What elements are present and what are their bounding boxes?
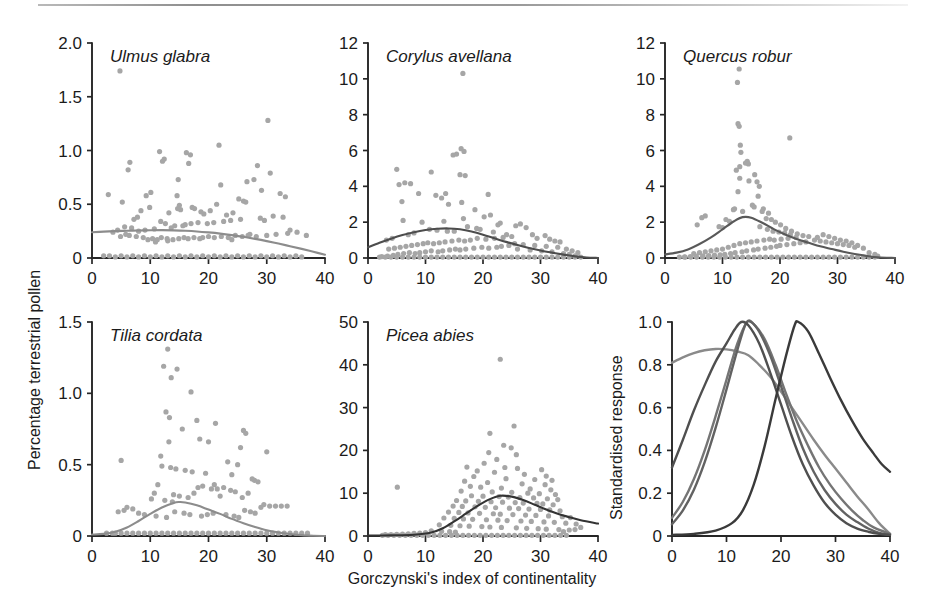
y-tick-label: 6	[646, 142, 655, 161]
scatter-points	[104, 347, 310, 536]
y-tick-label: 1.5	[58, 313, 82, 332]
x-tick-label: 20	[199, 269, 218, 288]
y-tick-label: 0	[73, 527, 82, 546]
axis-spine	[368, 322, 598, 536]
y-tick-label: 0	[653, 527, 662, 546]
y-tick-label: 0	[73, 249, 82, 268]
scatter-points	[377, 71, 583, 260]
top-divider-rule	[38, 4, 908, 6]
y-tick-label: 1.0	[58, 142, 82, 161]
x-tick-label: 20	[199, 547, 218, 566]
y-tick-label: 0.5	[58, 456, 82, 475]
x-tick-label: 0	[667, 547, 676, 566]
panel-title-tilia-cordata: Tilia cordata	[110, 326, 202, 345]
x-tick-label: 10	[141, 269, 160, 288]
y-tick-label: 30	[339, 399, 358, 418]
x-tick-label: 30	[828, 269, 847, 288]
panel-title-quercus-robur: Quercus robur	[683, 47, 793, 66]
x-tick-label: 10	[416, 269, 435, 288]
x-tick-label: 0	[87, 547, 96, 566]
y-tick-label: 50	[339, 313, 358, 332]
y-tick-label: 0.5	[58, 195, 82, 214]
panel-quercus-robur: 024681012010203040Quercus robur	[607, 17, 921, 304]
y-tick-label: 1.5	[58, 88, 82, 107]
panel-corylus-avellana: 024681012010203040Corylus avellana	[310, 17, 624, 304]
panel-title-ulmus-glabra: Ulmus glabra	[110, 47, 210, 66]
y-tick-label: 0.8	[638, 356, 662, 375]
x-tick-label: 30	[257, 269, 276, 288]
y-tick-label: 12	[339, 34, 358, 53]
x-tick-label: 40	[886, 269, 905, 288]
y-tick-label: 2	[646, 213, 655, 232]
y-tick-label: 2	[349, 213, 358, 232]
response-curve-corylus-avellana	[672, 320, 890, 533]
y-tick-label: 8	[646, 106, 655, 125]
x-tick-label: 20	[772, 547, 791, 566]
y-tick-label: 10	[339, 70, 358, 89]
x-tick-label: 20	[771, 269, 790, 288]
x-tick-label: 30	[531, 547, 550, 566]
y-tick-label: 1.0	[58, 384, 82, 403]
x-tick-label: 0	[363, 547, 372, 566]
y-tick-label: 0	[349, 527, 358, 546]
y-tick-label: 20	[339, 441, 358, 460]
y-tick-label: 0.4	[638, 441, 662, 460]
panel-standardised-response: 00.20.40.60.81.0010203040	[614, 296, 916, 582]
y-tick-label: 10	[339, 484, 358, 503]
y-tick-label: 6	[349, 142, 358, 161]
x-tick-label: 30	[257, 547, 276, 566]
x-tick-label: 30	[531, 269, 550, 288]
x-tick-label: 0	[87, 269, 96, 288]
y-tick-label: 4	[646, 177, 655, 196]
y-axis-title-right: Standardised response	[608, 355, 626, 520]
x-tick-label: 30	[826, 547, 845, 566]
x-tick-label: 20	[474, 547, 493, 566]
y-tick-label: 1.0	[638, 313, 662, 332]
y-tick-label: 4	[349, 177, 358, 196]
y-tick-label: 0.2	[638, 484, 662, 503]
x-tick-label: 0	[660, 269, 669, 288]
x-tick-label: 40	[589, 269, 608, 288]
figure-root: Percentage terrestrial pollen Gorczynski…	[0, 0, 944, 613]
panel-ulmus-glabra: 00.51.01.52.0010203040Ulmus glabra	[34, 17, 351, 304]
y-tick-label: 12	[636, 34, 655, 53]
x-tick-label: 10	[141, 547, 160, 566]
panel-tilia-cordata: 00.51.01.5010203040Tilia cordata	[34, 296, 351, 582]
axis-spine	[92, 322, 325, 536]
x-tick-label: 0	[363, 269, 372, 288]
x-tick-label: 10	[717, 547, 736, 566]
panel-picea-abies: 01020304050010203040Picea abies	[310, 296, 624, 582]
y-tick-label: 10	[636, 70, 655, 89]
y-tick-label: 0.6	[638, 399, 662, 418]
y-tick-label: 8	[349, 106, 358, 125]
axis-spine	[368, 43, 598, 258]
x-tick-label: 10	[416, 547, 435, 566]
y-tick-label: 40	[339, 356, 358, 375]
y-tick-label: 0	[646, 249, 655, 268]
x-tick-label: 40	[589, 547, 608, 566]
panel-title-corylus-avellana: Corylus avellana	[386, 47, 512, 66]
y-tick-label: 0	[349, 249, 358, 268]
panel-title-picea-abies: Picea abies	[386, 326, 474, 345]
response-curve-picea-abies	[672, 321, 890, 535]
scatter-points	[380, 357, 584, 538]
x-tick-label: 10	[713, 269, 732, 288]
y-tick-label: 2.0	[58, 34, 82, 53]
x-tick-label: 20	[474, 269, 493, 288]
x-tick-label: 40	[881, 547, 900, 566]
